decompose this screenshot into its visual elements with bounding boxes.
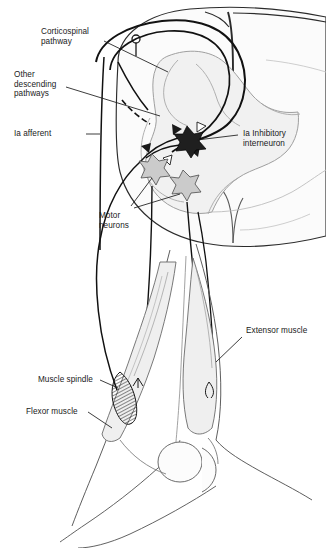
hind-limb-outline [60,244,312,548]
flexor-muscle-body [102,262,176,441]
knee-joint-bones [60,438,218,548]
label-ia-afferent: Ia afferent [14,129,51,139]
label-corticospinal-pathway: Corticospinal pathway [41,27,89,46]
extensor-muscle-body [183,258,217,434]
label-other-descending-pathways: Other descending pathways [14,70,56,99]
label-motor-neurons: Motor neurons [99,211,129,230]
label-flexor-muscle: Flexor muscle [26,407,78,417]
reciprocal-innervation-figure: Corticospinal pathway Other descending p… [0,0,326,548]
leader-extensor [216,337,242,362]
label-ia-inhibitory-interneuron: Ia Inhibitory interneuron [243,129,286,148]
label-muscle-spindle: Muscle spindle [38,375,93,385]
spinal-cord-cross-section [116,7,326,246]
label-extensor-muscle: Extensor muscle [246,326,307,336]
